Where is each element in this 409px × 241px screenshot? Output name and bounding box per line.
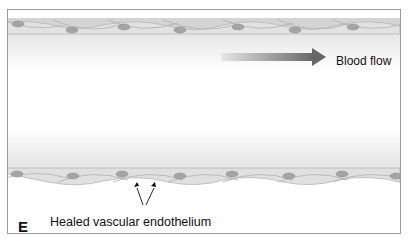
- bottom-endothelium: [8, 168, 400, 185]
- panel-letter: E: [18, 218, 28, 234]
- endothelium-label: Healed vascular endothelium: [50, 215, 211, 229]
- vessel-illustration: [8, 10, 400, 233]
- diagram-frame: Blood flow Healed vascular endothelium E: [7, 9, 401, 234]
- top-endothelium: [8, 18, 400, 34]
- pointer-arrows: [134, 182, 156, 205]
- blood-flow-label: Blood flow: [336, 54, 391, 68]
